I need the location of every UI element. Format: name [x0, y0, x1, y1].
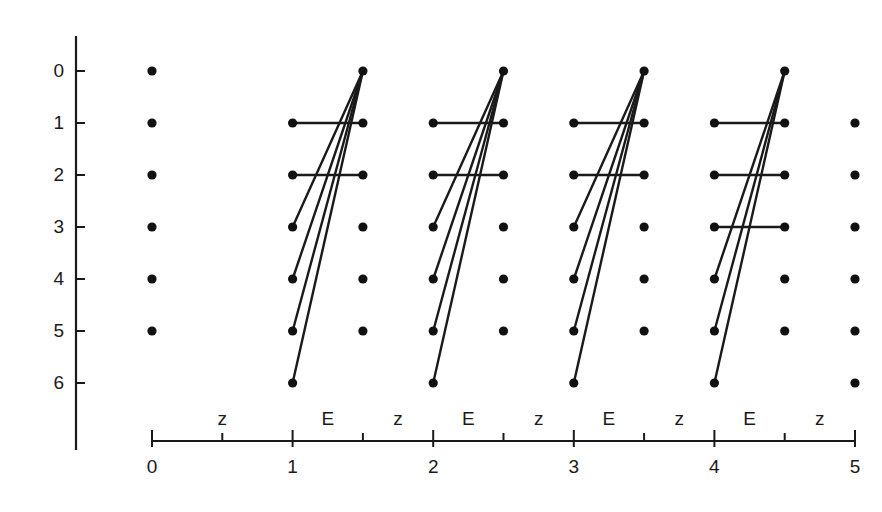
lattice-node: [850, 170, 859, 179]
lattice-node: [288, 274, 297, 283]
lattice-node: [850, 378, 859, 387]
lattice-edge-diagonal: [433, 71, 503, 383]
segment-label-z: z: [534, 408, 544, 429]
lattice-node: [429, 222, 438, 231]
lattice-node: [499, 274, 508, 283]
lattice-node: [147, 222, 156, 231]
lattice-node: [710, 326, 719, 335]
lattice-node: [780, 274, 789, 283]
lattice-node: [147, 118, 156, 127]
y-axis-tick-label: 4: [53, 268, 64, 289]
lattice-edge-diagonal: [293, 71, 363, 383]
segment-label-E: E: [603, 408, 616, 429]
segment-label-z: z: [675, 408, 685, 429]
lattice-node: [710, 378, 719, 387]
lattice-node: [288, 326, 297, 335]
y-axis-tick-label: 1: [53, 112, 64, 133]
lattice-node: [499, 326, 508, 335]
y-axis-tick-label: 0: [53, 60, 64, 81]
lattice-node: [499, 118, 508, 127]
lattice-node: [780, 222, 789, 231]
segment-label-E: E: [321, 408, 334, 429]
lattice-node: [429, 118, 438, 127]
x-axis-tick-label: 0: [147, 456, 158, 477]
lattice-node: [640, 170, 649, 179]
lattice-node: [358, 274, 367, 283]
lattice-node: [358, 222, 367, 231]
lattice-node: [147, 326, 156, 335]
lattice-node: [569, 326, 578, 335]
lattice-edge-diagonal: [714, 71, 784, 331]
lattice-node: [288, 118, 297, 127]
lattice-node: [569, 222, 578, 231]
lattice-node: [499, 66, 508, 75]
segment-label-E: E: [743, 408, 756, 429]
lattice-node: [429, 170, 438, 179]
lattice-node: [288, 170, 297, 179]
y-axis: 0123456: [53, 36, 85, 450]
lattice-node: [780, 170, 789, 179]
lattice-node: [147, 170, 156, 179]
lattice-node: [569, 118, 578, 127]
lattice-node: [358, 170, 367, 179]
lattice-node: [640, 66, 649, 75]
segment-label-E: E: [462, 408, 475, 429]
lattice-node: [429, 274, 438, 283]
segment-label-z: z: [218, 408, 228, 429]
lattice-node: [850, 118, 859, 127]
lattice-node: [358, 118, 367, 127]
x-axis-tick-label: 3: [569, 456, 580, 477]
lattice-node: [569, 170, 578, 179]
lattice-node: [147, 66, 156, 75]
lattice-path-figure: 0123456 012345 zEzEzEzEz: [0, 0, 882, 512]
x-axis: 012345: [147, 430, 861, 477]
y-axis-tick-label: 2: [53, 164, 64, 185]
x-axis-tick-label: 2: [428, 456, 439, 477]
lattice-node: [710, 222, 719, 231]
lattice-node: [710, 274, 719, 283]
segment-label-layer: zEzEzEzEz: [218, 408, 825, 429]
lattice-node: [780, 118, 789, 127]
lattice-node: [640, 274, 649, 283]
lattice-node: [288, 378, 297, 387]
lattice-node: [850, 326, 859, 335]
lattice-node: [640, 222, 649, 231]
lattice-node: [710, 118, 719, 127]
lattice-node: [358, 326, 367, 335]
lattice-node: [429, 378, 438, 387]
y-axis-tick-label: 3: [53, 216, 64, 237]
lattice-node: [850, 274, 859, 283]
lattice-node: [147, 274, 156, 283]
lattice-node: [780, 326, 789, 335]
lattice-node: [499, 170, 508, 179]
lattice-node: [640, 118, 649, 127]
x-axis-tick-label: 4: [709, 456, 720, 477]
lattice-node: [499, 222, 508, 231]
lattice-node: [288, 222, 297, 231]
lattice-node: [569, 378, 578, 387]
lattice-node: [850, 222, 859, 231]
x-axis-tick-label: 1: [287, 456, 298, 477]
lattice-node: [710, 170, 719, 179]
y-axis-tick-label: 6: [53, 372, 64, 393]
lattice-node: [569, 274, 578, 283]
lattice-edge-diagonal: [574, 71, 644, 383]
lattice-node: [429, 326, 438, 335]
x-axis-tick-label: 5: [850, 456, 861, 477]
segment-label-z: z: [815, 408, 825, 429]
y-axis-tick-label: 5: [53, 320, 64, 341]
lattice-node: [780, 66, 789, 75]
lattice-node: [358, 66, 367, 75]
segment-label-z: z: [393, 408, 403, 429]
lattice-node: [640, 326, 649, 335]
